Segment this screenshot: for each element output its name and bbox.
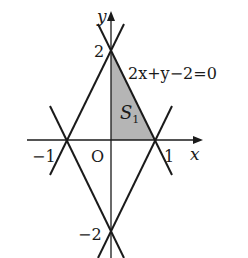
y-axis-label: y bbox=[96, 6, 107, 26]
tick-label-x-1: 1 bbox=[164, 147, 174, 166]
x-axis-label: x bbox=[190, 144, 200, 164]
tick-label-y-neg2: −2 bbox=[78, 225, 102, 244]
region-label-subscript: 1 bbox=[132, 113, 139, 126]
y-axis-arrow-icon bbox=[107, 11, 115, 21]
coordinate-diagram: y x O 2 −2 −1 1 2x+y−2=0 S1 bbox=[0, 0, 248, 258]
origin-label: O bbox=[91, 147, 104, 166]
tick-label-x-neg1: −1 bbox=[32, 147, 56, 166]
equation-label: 2x+y−2=0 bbox=[128, 64, 217, 83]
line-2x-plus-y-minus-2 bbox=[98, 24, 172, 175]
region-label-main: S bbox=[120, 102, 132, 123]
x-axis-arrow-icon bbox=[193, 136, 203, 144]
tick-label-y-2: 2 bbox=[94, 42, 104, 61]
